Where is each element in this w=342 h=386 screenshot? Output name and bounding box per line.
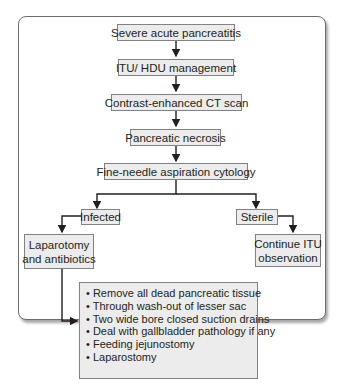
continue-line1: Continue ITU [254,237,322,251]
step-item: • Through wash-out of lesser sac [86,300,257,313]
node-fine-needle-aspiration: Fine-needle aspiration cytology [104,163,248,180]
step-item: • Laparostomy [86,351,257,364]
step-item: • Remove all dead pancreatic tissue [86,287,257,300]
node-pancreatic-necrosis: Pancreatic necrosis [130,129,221,146]
node-infected: Infected [81,209,120,225]
node-continue-itu-observation: Continue ITU observation [255,234,321,267]
node-ct-scan: Contrast-enhanced CT scan [111,94,242,111]
step-item: • Feeding jejunostomy [86,338,257,351]
surgical-steps-box: • Remove all dead pancreatic tissue • Th… [79,282,258,379]
laparotomy-line2: and antibiotics [22,252,96,266]
node-severe-acute-pancreatitis: Severe acute pancreatitis [117,24,235,41]
continue-line2: observation [258,251,317,265]
node-itu-hdu-management: ITU/ HDU management [118,59,234,76]
laparotomy-line1: Laparotomy [29,238,90,252]
step-item: • Deal with gallbladder pathology if any [86,325,257,338]
node-laparotomy-antibiotics: Laparotomy and antibiotics [24,234,94,269]
node-sterile: Sterile [236,209,278,225]
step-item: • Two wide bore closed suction drains [86,313,257,326]
